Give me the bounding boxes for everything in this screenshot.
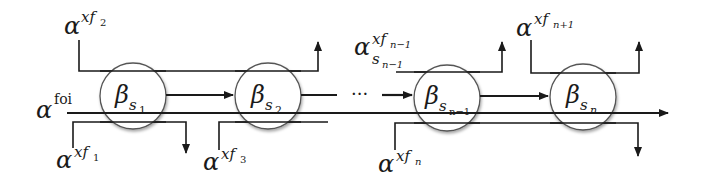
svg-text:β: β [114, 81, 129, 109]
svg-text:s: s [265, 96, 273, 114]
label-alpha-xfn-1: α xf n−1 s n−1 [354, 30, 411, 70]
svg-text:α: α [36, 96, 52, 124]
node-sn-1 [414, 65, 480, 131]
label-alpha-xf2: α xf 2 [64, 8, 106, 40]
svg-text:n−1: n−1 [390, 39, 411, 50]
svg-text:1: 1 [93, 152, 99, 163]
svg-text:β: β [424, 82, 439, 110]
svg-text:β: β [250, 81, 265, 109]
svg-text:α: α [56, 146, 72, 174]
svg-text:α: α [64, 12, 80, 40]
label-alpha-foi: α foi [36, 91, 73, 124]
svg-text:xf: xf [534, 10, 550, 28]
svg-text:β: β [565, 81, 580, 109]
svg-text:2: 2 [100, 17, 106, 28]
svg-text:s: s [372, 50, 380, 68]
svg-text:2: 2 [275, 104, 282, 117]
svg-text:α: α [516, 14, 532, 42]
svg-text:n−1: n−1 [382, 59, 403, 70]
ellipsis: ··· [351, 83, 368, 104]
xfn-flow-line [395, 123, 638, 156]
flow-diagram: ··· β s 1 β s 2 β s n−1 β s n α foi α xf… [0, 0, 703, 189]
svg-text:n+1: n+1 [553, 19, 574, 30]
svg-text:foi: foi [54, 91, 73, 107]
svg-text:xf: xf [396, 147, 412, 165]
svg-text:3: 3 [240, 154, 246, 165]
svg-text:α: α [378, 150, 394, 178]
svg-text:xf: xf [74, 143, 90, 161]
svg-text:n: n [415, 156, 421, 167]
svg-text:xf: xf [372, 30, 388, 48]
svg-text:s: s [580, 96, 588, 114]
svg-text:n−1: n−1 [449, 106, 470, 117]
svg-text:s: s [129, 96, 137, 114]
label-alpha-xfn+1: α xf n+1 [516, 10, 574, 42]
svg-text:α: α [354, 33, 370, 61]
svg-text:α: α [203, 148, 219, 176]
svg-text:xf: xf [221, 145, 237, 163]
svg-text:s: s [439, 97, 447, 115]
label-alpha-xf3: α xf 3 [203, 145, 246, 176]
svg-text:xf: xf [81, 8, 97, 26]
svg-text:1: 1 [139, 104, 146, 117]
label-alpha-xfn: α xf n [378, 147, 421, 178]
svg-text:n: n [590, 104, 597, 117]
label-alpha-xf1: α xf 1 [56, 143, 99, 174]
